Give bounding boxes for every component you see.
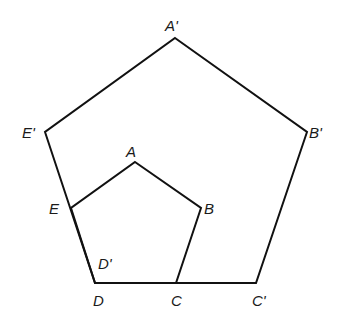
label-e-prime: E': [22, 125, 35, 140]
pentagon-dilation-diagram: [0, 0, 345, 323]
label-b: B: [204, 201, 214, 216]
label-a: A: [126, 144, 136, 159]
label-e: E: [49, 201, 59, 216]
label-c: C: [171, 293, 182, 308]
label-c-prime: C': [252, 293, 266, 308]
label-d-prime: D': [98, 256, 112, 271]
label-d: D: [93, 293, 104, 308]
label-a-prime: A': [165, 18, 178, 33]
small-pentagon-abcde: [71, 162, 201, 283]
large-pentagon-abcde-prime: [45, 38, 307, 283]
label-b-prime: B': [309, 125, 322, 140]
